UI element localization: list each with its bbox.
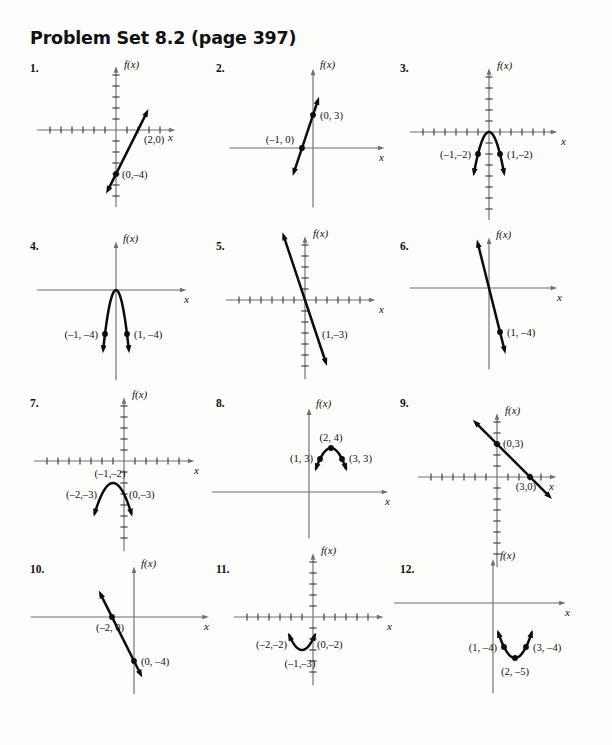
problem-number-12: 12. [400, 563, 414, 575]
point-label: (0,3) [503, 438, 524, 450]
point-marker [501, 644, 507, 650]
point-label: (–2, 0) [96, 622, 125, 634]
point-label: (–1, 0) [266, 134, 295, 146]
function-curve [476, 423, 548, 495]
problem-number-8: 8. [216, 397, 225, 409]
y-axis-label: f(x) [497, 59, 513, 72]
point-marker [512, 655, 518, 661]
graph-8: (2, 4)(1, 3)(3, 3)f(x)x [0, 0, 612, 745]
problem-number-5: 5. [216, 240, 225, 252]
x-axis-label: x [556, 291, 562, 303]
point-label: (0, –4) [141, 656, 170, 668]
point-marker [328, 445, 334, 451]
y-axis-label: f(x) [321, 544, 337, 557]
point-label: (1,–2) [507, 149, 533, 161]
problem-number-7: 7. [30, 397, 39, 409]
point-marker [317, 456, 323, 462]
point-label: (2, 4) [320, 432, 343, 444]
point-label: (1, –4) [134, 329, 163, 341]
point-marker [494, 441, 500, 447]
point-label: (1,–3) [322, 329, 348, 341]
function-curve [478, 244, 504, 349]
function-curve [284, 237, 325, 361]
y-axis-label: f(x) [320, 58, 336, 71]
point-label: (1, –4) [507, 327, 536, 339]
problem-number-4: 4. [30, 240, 39, 252]
graph-6: (1, –4)f(x)x [0, 0, 612, 745]
y-axis-label: f(x) [141, 557, 157, 570]
function-curve [108, 114, 146, 190]
point-marker [339, 456, 345, 462]
graph-10: (–2, 0)(0, –4)f(x)x [0, 0, 612, 745]
function-curve [498, 632, 532, 658]
point-label: (2, –5) [501, 666, 530, 678]
point-marker [109, 614, 115, 620]
point-label: (–1,–3) [285, 658, 316, 670]
point-label: (1, 3) [290, 453, 313, 465]
point-marker [131, 658, 137, 664]
point-marker [113, 171, 119, 177]
problem-number-3: 3. [400, 62, 409, 74]
graph-4: (–1, –4)(1, –4)f(x)x [0, 0, 612, 745]
graph-2: (–1, 0)(0, 3)f(x)x [0, 0, 612, 745]
page-title: Problem Set 8.2 (page 397) [30, 28, 296, 48]
problem-number-9: 9. [400, 397, 409, 409]
x-axis-label: x [384, 495, 390, 507]
point-label: (–1, –4) [64, 329, 98, 341]
x-axis-label: x [548, 480, 554, 492]
point-label: (3, –4) [533, 642, 562, 654]
point-label: (0,–2) [317, 639, 343, 651]
x-axis-label: x [193, 464, 199, 476]
graph-11: (–2,–2)(0,–2)(–1,–3)f(x)x [0, 0, 612, 745]
x-axis-label: x [560, 135, 566, 147]
graph-9: (0,3)(3,0)f(x)x [0, 0, 612, 745]
point-marker [527, 474, 533, 480]
x-axis-label: x [378, 151, 384, 163]
problem-number-10: 10. [30, 563, 44, 575]
y-axis-label: f(x) [132, 388, 148, 401]
point-label: (0, 3) [320, 110, 343, 122]
function-curve [101, 595, 140, 673]
point-marker [102, 331, 108, 337]
graph-1: (2,0)(0,–4)f(x)x [0, 0, 612, 745]
function-curve [95, 483, 132, 514]
point-label: (3,0) [516, 481, 537, 493]
x-axis-label: x [386, 620, 392, 632]
x-axis-label: x [564, 606, 570, 618]
x-axis-label: x [203, 620, 209, 632]
problem-number-2: 2. [216, 62, 225, 74]
function-curve [103, 290, 128, 348]
worksheet-page: Problem Set 8.2 (page 397) 1.(2,0)(0,–4)… [0, 0, 612, 745]
problem-number-6: 6. [400, 240, 409, 252]
point-label: (–2,–2) [256, 639, 287, 651]
point-marker [497, 329, 503, 335]
point-marker [299, 145, 305, 151]
point-marker [475, 151, 481, 157]
graph-12: (1, –4)(3, –4)(2, –5)f(x)x [0, 0, 612, 745]
function-curve [474, 132, 504, 173]
problem-number-1: 1. [30, 62, 39, 74]
point-label: (–1,–2) [440, 149, 471, 161]
point-marker [523, 644, 529, 650]
x-axis-label: x [183, 293, 189, 305]
y-axis-label: f(x) [313, 227, 329, 240]
x-axis-label: x [167, 131, 173, 143]
point-label: (2,0) [144, 134, 165, 146]
point-marker [124, 331, 130, 337]
y-axis-label: f(x) [500, 549, 516, 562]
point-marker [497, 151, 503, 157]
point-label: (–2,–3) [66, 489, 97, 501]
y-axis-label: f(x) [505, 404, 521, 417]
graph-3: (–1,–2)(1,–2)f(x)x [0, 0, 612, 745]
y-axis-label: f(x) [316, 397, 332, 410]
function-curve [294, 102, 317, 172]
y-axis-label: f(x) [124, 58, 140, 71]
function-curve [289, 634, 315, 650]
y-axis-label: f(x) [496, 228, 512, 241]
point-label: (–1,–2) [95, 468, 126, 480]
y-axis-label: f(x) [123, 232, 139, 245]
point-marker [310, 112, 316, 118]
point-label: (0,–4) [122, 169, 148, 181]
graph-5: (1,–3)f(x)x [0, 0, 612, 745]
graph-7: (–1,–2)(–2,–3)(0,–3)f(x)x [0, 0, 612, 745]
